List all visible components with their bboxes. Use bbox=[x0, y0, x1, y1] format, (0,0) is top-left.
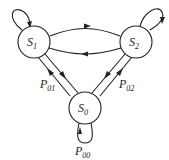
transition-label-p00: P00 bbox=[74, 144, 90, 160]
arrow-s2-to-s1 bbox=[81, 52, 88, 57]
arrow-s1-to-s2 bbox=[84, 24, 91, 29]
markov-chain-diagram: S1 S2 S0 P01 P02 P00 bbox=[0, 0, 169, 160]
state-s2: S2 bbox=[120, 26, 152, 58]
transition-label-p01: P01 bbox=[39, 77, 55, 93]
edge-s1-to-s2 bbox=[50, 29, 120, 37]
state-s0: S0 bbox=[69, 92, 101, 124]
state-s1: S1 bbox=[18, 26, 50, 58]
edge-s2-self-loop bbox=[140, 9, 163, 30]
transition-label-p02: P02 bbox=[118, 77, 134, 93]
